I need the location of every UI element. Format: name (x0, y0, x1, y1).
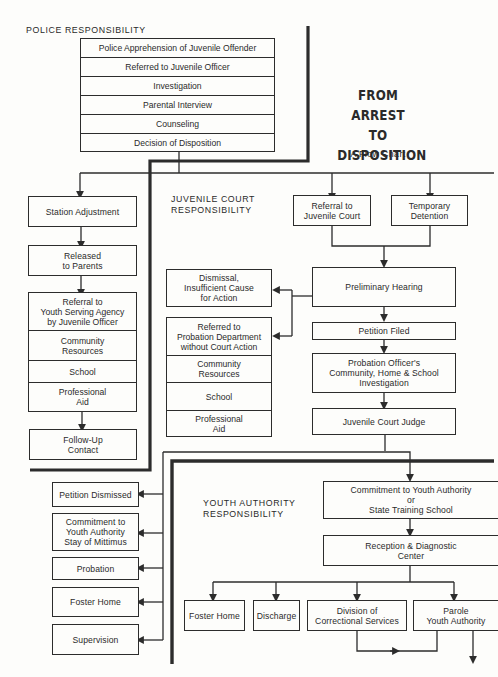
youth-referral-item[interactable]: School (29, 361, 136, 383)
youth-referral-item[interactable]: Referral to Youth Serving Agency by Juve… (29, 293, 136, 331)
petition-dismissed-box[interactable]: Petition Dismissed (52, 482, 139, 507)
probation-referral-stack: Referred to Probation Department without… (166, 317, 272, 437)
youth-referral-stack: Referral to Youth Serving Agency by Juve… (28, 292, 137, 412)
temporary-detention-box[interactable]: Temporary Detention (391, 195, 468, 226)
youth-referral-item[interactable]: Professional Aid (29, 383, 136, 411)
follow-up-contact-box[interactable]: Follow-Up Contact (29, 429, 137, 460)
supervision-box[interactable]: Supervision (52, 624, 139, 655)
stay-of-mittimus-box[interactable]: Commitment to Youth Authority Stay of Mi… (52, 513, 139, 551)
released-to-parents-box[interactable]: Released to Parents (28, 245, 137, 276)
preliminary-hearing-box[interactable]: Preliminary Hearing (312, 267, 456, 307)
juvenile-court-responsibility-label: JUVENILE COURT RESPONSIBILITY (171, 194, 255, 215)
juvenile-court-judge-box[interactable]: Juvenile Court Judge (312, 408, 456, 435)
probation-investigation-box[interactable]: Probation Officer's Community, Home & Sc… (312, 353, 456, 393)
police-step[interactable]: Investigation (81, 77, 274, 96)
discharge-box[interactable]: Discharge (253, 600, 300, 631)
ya-foster-home-box[interactable]: Foster Home (184, 600, 245, 631)
police-steps-stack: Police Apprehension of Juvenile Offender… (80, 38, 275, 152)
dismissal-box[interactable]: Dismissal, Insufficient Cause for Action (166, 269, 272, 307)
parole-box[interactable]: Parole Youth Authority (413, 600, 498, 631)
referral-to-juvenile-court-box[interactable]: Referral to Juvenile Court (293, 195, 371, 226)
police-step[interactable]: Decision of Disposition (81, 134, 274, 151)
youth-authority-responsibility-label: YOUTH AUTHORITY RESPONSIBILITY (203, 498, 296, 519)
police-step[interactable]: Referred to Juvenile Officer (81, 58, 274, 77)
police-responsibility-label: POLICE RESPONSIBILITY (26, 25, 146, 36)
police-step[interactable]: Police Apprehension of Juvenile Offender (81, 39, 274, 58)
police-step[interactable]: Parental Interview (81, 96, 274, 115)
chart-subtitle: A Flow Chart (330, 149, 426, 159)
probation-referral-item[interactable]: Community Resources (167, 356, 271, 383)
probation-box[interactable]: Probation (52, 557, 139, 580)
probation-referral-item[interactable]: School (167, 383, 271, 411)
youth-referral-item[interactable]: Community Resources (29, 331, 136, 361)
foster-home-box[interactable]: Foster Home (52, 587, 139, 617)
probation-referral-item[interactable]: Professional Aid (167, 411, 271, 436)
petition-filed-box[interactable]: Petition Filed (312, 322, 456, 340)
commitment-box[interactable]: Commitment to Youth Authority or State T… (323, 481, 498, 519)
reception-diagnostic-box[interactable]: Reception & Diagnostic Center (323, 535, 498, 566)
station-adjustment-box[interactable]: Station Adjustment (28, 196, 137, 227)
probation-referral-item[interactable]: Referred to Probation Department without… (167, 318, 271, 356)
police-step[interactable]: Counseling (81, 115, 274, 134)
correctional-services-box[interactable]: Division of Correctional Services (307, 600, 407, 631)
